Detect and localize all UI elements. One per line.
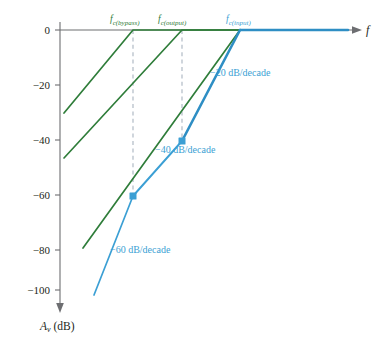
y-tick-label-m100: −100	[27, 284, 50, 296]
curve-output-capacitor	[64, 30, 240, 158]
label-fc-input-sub: c(input)	[229, 19, 252, 27]
marker-fc-bypass	[130, 193, 137, 200]
y-tick-label-0: 0	[45, 24, 51, 36]
slope-annotations: −20 dB/decade −40 dB/decade −60 dB/decad…	[110, 67, 271, 255]
label-fc-output: fc(output)	[158, 14, 187, 27]
y-axis-arrowhead	[56, 303, 64, 313]
slope-label-40db: −40 dB/decade	[155, 144, 216, 155]
green-response-curves	[64, 30, 340, 248]
y-tick-label-m80: −80	[33, 244, 51, 256]
slope-label-60db: −60 dB/decade	[110, 244, 171, 255]
axis-titles: f Av (dB)	[39, 23, 371, 334]
label-fc-bypass: fc(bypass)	[110, 14, 140, 27]
x-axis-arrowhead	[352, 26, 362, 34]
bode-plot-svg: 0 −20 −40 −60 −80 −100	[0, 0, 384, 347]
y-axis-label: Av (dB)	[39, 320, 75, 334]
slope-label-20db: −20 dB/decade	[210, 67, 271, 78]
y-tick-label-m20: −20	[33, 79, 51, 91]
bode-plot-figure: 0 −20 −40 −60 −80 −100	[0, 0, 384, 347]
breakpoint-labels: fc(bypass) fc(output) fc(input)	[110, 14, 251, 27]
y-tick-marks	[55, 30, 60, 290]
label-fc-input: fc(input)	[226, 14, 251, 27]
axis-group	[56, 22, 362, 313]
y-tick-labels: 0 −20 −40 −60 −80 −100	[27, 24, 50, 296]
label-fc-bypass-sub: c(bypass)	[113, 19, 140, 27]
y-axis-label-unit: (dB)	[51, 320, 75, 333]
segment-20db-per-decade	[182, 30, 240, 141]
y-tick-label-m60: −60	[33, 189, 51, 201]
curve-input-capacitor	[83, 30, 340, 248]
label-fc-output-sub: c(output)	[161, 19, 187, 27]
x-axis-label: f	[366, 23, 371, 37]
breakpoint-droplines	[133, 30, 182, 196]
y-tick-label-m40: −40	[33, 134, 51, 146]
